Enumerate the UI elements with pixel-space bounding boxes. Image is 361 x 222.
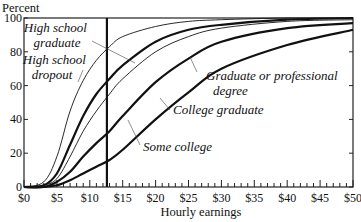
x-tick-label: $5 — [51, 191, 63, 205]
x-tick-label: $35 — [245, 191, 263, 205]
x-axis: $0$5$10$15$20$25$30$35$40$45$50 — [18, 180, 361, 205]
x-tick-label: $40 — [278, 191, 296, 205]
label-high-school-dropout: High school dropout — [22, 52, 89, 82]
x-axis-title: Hourly earnings — [161, 205, 242, 219]
x-tick-label: $25 — [180, 191, 198, 205]
x-tick-label: $15 — [114, 191, 132, 205]
label-high-school-graduate: High school graduate — [23, 20, 90, 50]
x-tick-label: $30 — [212, 191, 230, 205]
label-graduate-degree: Graduate or professional degree — [206, 68, 341, 98]
y-tick-label: 20 — [10, 146, 22, 160]
y-tick-label: 100 — [4, 11, 22, 25]
label-college-graduate: College graduate — [173, 102, 264, 117]
x-tick-label: $0 — [18, 191, 30, 205]
x-tick-label: $45 — [311, 191, 329, 205]
label-some-college: Some college — [143, 139, 212, 154]
x-tick-label: $20 — [147, 191, 165, 205]
y-tick-label: 80 — [10, 45, 22, 59]
y-tick-label: 40 — [10, 112, 22, 126]
earnings-distribution-chart: Percent 020406080100 $0$5$10$15$20$25$30… — [0, 0, 361, 222]
y-tick-label: 60 — [10, 79, 22, 93]
x-tick-label: $10 — [81, 191, 99, 205]
x-tick-label: $50 — [344, 191, 361, 205]
